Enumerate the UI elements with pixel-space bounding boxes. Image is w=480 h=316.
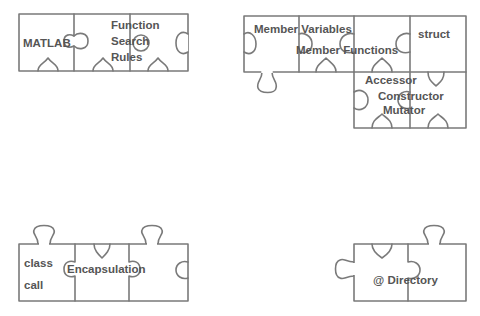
label-struct: struct: [418, 29, 450, 41]
label-class: class: [24, 258, 53, 270]
label-accessor: Accessor: [365, 75, 417, 87]
label-constructor: Constructor: [378, 91, 444, 103]
label-encapsulation: Encapsulation: [67, 264, 146, 276]
label-rules: Rules: [111, 52, 142, 64]
puzzle-group-directory: [336, 226, 467, 302]
label-search: Search: [111, 36, 149, 48]
group3-top-tab-1: [34, 226, 55, 245]
label-member-variables: Member Variables: [254, 24, 352, 36]
label-matlab: MATLAB: [23, 38, 71, 50]
label-call: call: [24, 280, 43, 292]
label-directory: @ Directory: [373, 275, 438, 287]
group3-top-tab-3: [142, 226, 163, 245]
group4-top-tab: [424, 226, 445, 245]
label-function: Function: [111, 20, 160, 32]
label-mutator: Mutator: [383, 105, 425, 117]
label-member-functions: Member Functions: [296, 45, 398, 57]
group4-outline: [354, 244, 466, 301]
group4-left-tab: [336, 259, 355, 278]
group2-bottom-tab-1: [258, 72, 277, 93]
